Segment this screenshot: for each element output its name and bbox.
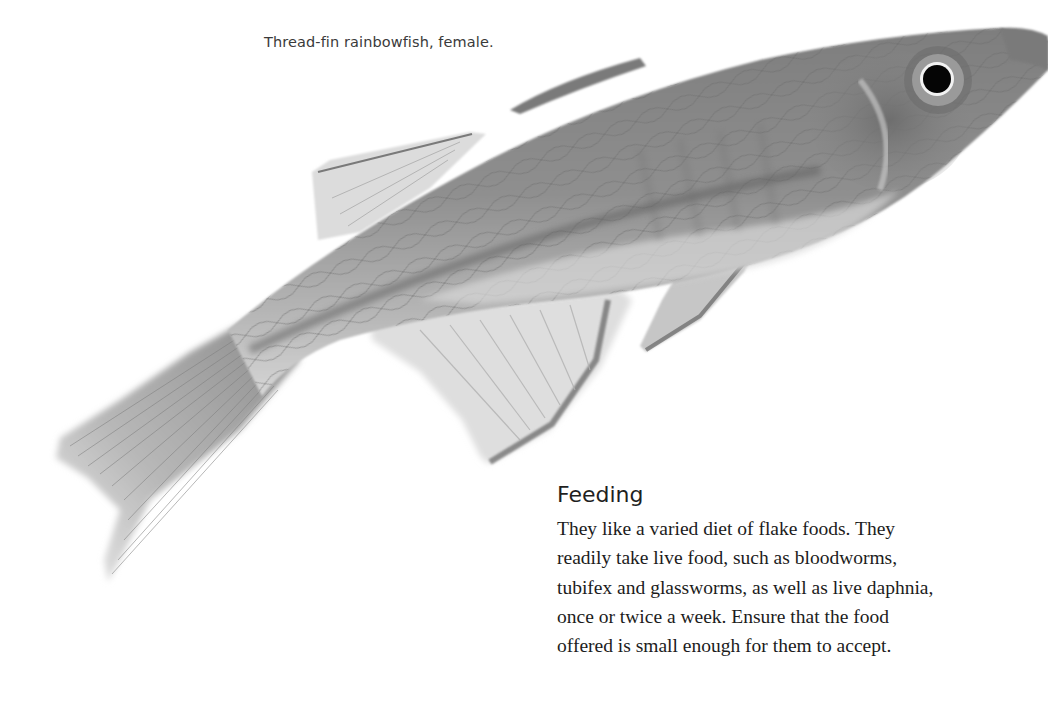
feeding-section: Feeding They like a varied diet of flake…	[557, 478, 1047, 660]
body-line: They like a varied diet of flake foods. …	[557, 514, 1047, 543]
body-line: offered is small enough for them to acce…	[557, 631, 1047, 660]
book-page: Thread-fin rainbowfish, female. Feeding …	[0, 0, 1048, 716]
body-line: once or twice a week. Ensure that the fo…	[557, 602, 1047, 631]
body-line: tubifex and glassworms, as well as live …	[557, 573, 1047, 602]
body-line: readily take live food, such as bloodwor…	[557, 543, 1047, 572]
figure-caption: Thread-fin rainbowfish, female.	[264, 34, 494, 50]
fish-eye	[904, 46, 972, 114]
section-body: They like a varied diet of flake foods. …	[557, 514, 1047, 660]
section-heading: Feeding	[557, 478, 1047, 512]
